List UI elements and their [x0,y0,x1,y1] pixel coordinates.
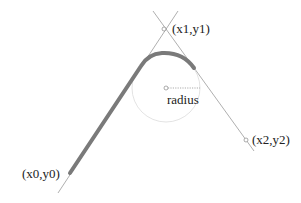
arcto-path [70,53,194,173]
point-p2-icon [244,138,248,142]
point-p1-icon [162,27,166,31]
label-p1: (x1,y1) [172,21,210,36]
center-point-icon [164,86,168,90]
arcto-diagram: (x1,y1) radius (x2,y2) (x0,y0) [0,0,301,203]
label-radius: radius [167,92,199,107]
label-p2: (x2,y2) [252,132,290,147]
label-p0: (x0,y0) [22,166,60,181]
